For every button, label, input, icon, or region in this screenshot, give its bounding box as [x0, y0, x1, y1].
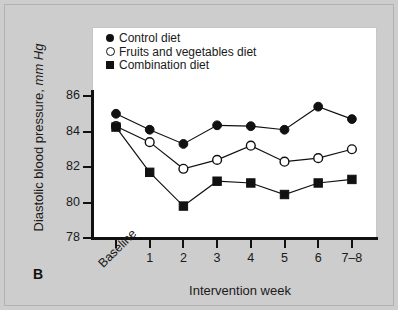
y-tick-label-86: 86: [40, 89, 80, 101]
y-tick-78: [83, 237, 92, 239]
data-point-s0-i0: [112, 109, 121, 118]
data-point-s1-i6: [314, 154, 323, 163]
figure-panel-b: 7880828486 Baseline1234567–8 Diastolic b…: [0, 0, 398, 310]
x-tick-6: [317, 240, 319, 248]
legend-label-combination-diet: Combination diet: [119, 59, 209, 73]
legend-label-fruits-vegetables-diet: Fruits and vegetables diet: [119, 46, 256, 60]
legend: Control diet Fruits and vegetables diet …: [103, 32, 256, 73]
data-point-s0-i6: [314, 102, 323, 111]
data-point-s1-i4: [246, 141, 255, 150]
x-tick-7: [351, 240, 353, 248]
data-point-s0-i4: [246, 122, 255, 131]
y-tick-label-84: 84: [40, 125, 80, 137]
y-axis-title-main: Diastolic blood pressure,: [31, 89, 46, 231]
data-point-s2-i3: [213, 177, 221, 185]
x-tick-1: [149, 240, 151, 248]
filled-circle-icon: [103, 32, 117, 46]
x-tick-4: [250, 240, 252, 248]
y-tick-86: [83, 95, 92, 97]
data-point-s0-i5: [280, 125, 289, 134]
y-tick-label-78: 78: [40, 231, 80, 243]
x-tick-5: [284, 240, 286, 248]
data-point-s2-i6: [314, 179, 322, 187]
x-axis-title: Intervention week: [150, 283, 330, 298]
y-axis-title-unit: mm Hg: [31, 44, 46, 86]
data-point-s0-i1: [145, 125, 154, 134]
data-point-s0-i7: [348, 115, 357, 124]
y-tick-label-80: 80: [40, 196, 80, 208]
data-point-s1-i1: [145, 138, 154, 147]
data-point-s1-i5: [280, 157, 289, 166]
y-tick-84: [83, 131, 92, 133]
data-point-s2-i5: [280, 190, 288, 198]
x-tick-2: [182, 240, 184, 248]
legend-label-control-diet: Control diet: [119, 32, 180, 46]
panel-label: B: [33, 266, 43, 282]
data-point-s1-i2: [179, 164, 188, 173]
data-point-s2-i7: [348, 175, 356, 183]
x-tick-label-7: 7–8: [332, 251, 372, 265]
data-point-s1-i3: [213, 156, 222, 165]
data-point-s0-i2: [179, 140, 188, 149]
data-point-s0-i3: [213, 121, 222, 130]
data-point-s2-i0: [112, 123, 120, 131]
y-tick-82: [83, 166, 92, 168]
x-tick-3: [216, 240, 218, 248]
data-point-s1-i7: [348, 145, 357, 154]
open-circle-icon: [103, 46, 117, 60]
filled-square-icon: [103, 59, 117, 73]
y-axis-line: [91, 90, 94, 240]
data-point-s2-i4: [247, 179, 255, 187]
legend-item-combination-diet: Combination diet: [103, 59, 256, 73]
y-axis-title: Diastolic blood pressure, mm Hg: [31, 38, 46, 238]
y-tick-label-82: 82: [40, 160, 80, 172]
y-tick-80: [83, 202, 92, 204]
legend-item-control-diet: Control diet: [103, 32, 256, 46]
data-point-s2-i1: [146, 168, 154, 176]
data-point-s2-i2: [179, 202, 187, 210]
legend-item-fruits-vegetables-diet: Fruits and vegetables diet: [103, 46, 256, 60]
